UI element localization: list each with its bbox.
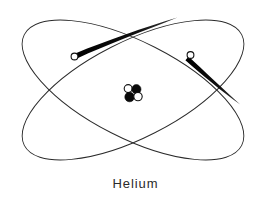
electron-right [187,52,194,59]
nucleus [124,85,142,102]
electron-left [71,53,78,60]
electron-right-trail [185,57,240,105]
figure-caption: Helium [0,176,271,192]
nucleus-particle-neutron-lower-right [134,92,142,100]
nucleus-particle-neutron-upper-left [124,85,132,93]
atom-diagram [0,0,271,200]
nucleus-particle-proton-lower-left [125,92,135,102]
helium-atom-figure: Helium [0,0,271,200]
